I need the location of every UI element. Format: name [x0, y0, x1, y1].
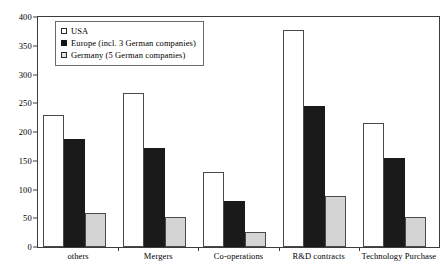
bar: [304, 106, 325, 247]
legend-label: Europe (incl. 3 German companies): [71, 39, 196, 48]
bar-group: [359, 17, 439, 247]
bar: [283, 30, 304, 247]
x-tick-label: R&D contracts: [292, 252, 345, 261]
bar: [203, 172, 224, 247]
bar: [325, 196, 346, 247]
y-tick-label: 400: [19, 13, 32, 22]
bar-group-inner: [359, 17, 439, 247]
x-axis: othersMergersCo-operationsR&D contractsT…: [38, 252, 439, 270]
bar: [64, 139, 85, 247]
y-tick-label: 0: [28, 243, 32, 252]
bar: [405, 217, 426, 247]
legend-swatch-icon: [61, 52, 67, 58]
y-tick-label: 50: [23, 214, 32, 223]
bar-group-inner: [198, 17, 278, 247]
bar: [224, 201, 245, 247]
bar: [85, 213, 106, 247]
x-tick-mark: [198, 247, 199, 251]
legend-item: Europe (incl. 3 German companies): [61, 37, 196, 49]
legend-swatch-icon: [61, 28, 67, 34]
bar: [165, 217, 186, 247]
x-tick-mark: [279, 247, 280, 251]
bar: [144, 148, 165, 247]
x-tick-mark: [359, 247, 360, 251]
y-tick-label: 300: [19, 70, 32, 79]
x-tick-label: Co-operations: [214, 252, 263, 261]
bar: [384, 158, 405, 247]
bar-chart: 050100150200250300350400 othersMergersCo…: [0, 0, 448, 278]
x-tick-label: others: [67, 252, 88, 261]
bar-group: [198, 17, 278, 247]
x-tick-label: Technology Purchase: [362, 252, 437, 261]
y-tick-label: 250: [19, 99, 32, 108]
y-tick-label: 150: [19, 157, 32, 166]
legend-swatch-icon: [61, 40, 67, 46]
y-tick-label: 100: [19, 185, 32, 194]
legend-label: USA: [71, 27, 88, 36]
x-tick-mark: [118, 247, 119, 251]
y-axis: 050100150200250300350400: [0, 16, 32, 248]
bar: [123, 93, 144, 247]
y-tick-label: 350: [19, 42, 32, 51]
bar: [43, 115, 64, 247]
legend-item: Germany (5 German companies): [61, 49, 196, 61]
bar-group-inner: [279, 17, 359, 247]
legend-label: Germany (5 German companies): [71, 51, 185, 60]
y-tick-label: 200: [19, 128, 32, 137]
x-tick-label: Mergers: [144, 252, 173, 261]
bar: [245, 232, 266, 247]
legend: USAEurope (incl. 3 German companies)Germ…: [55, 21, 204, 66]
bar-group: [279, 17, 359, 247]
bar: [363, 123, 384, 247]
legend-item: USA: [61, 25, 196, 37]
